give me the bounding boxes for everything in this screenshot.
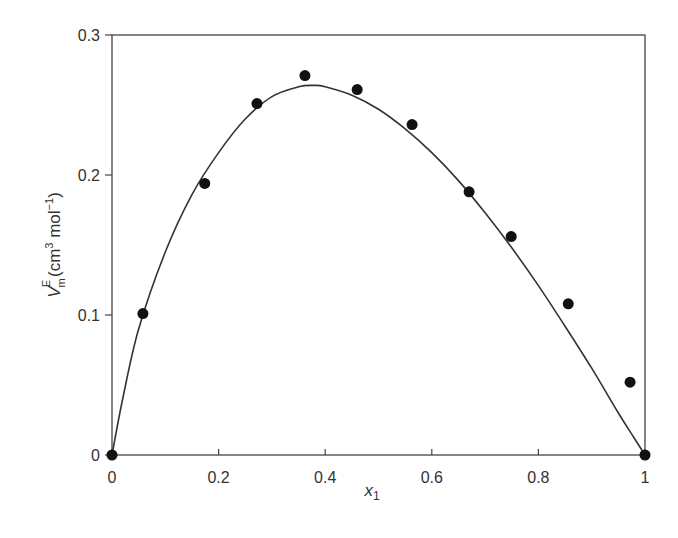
y-axis-label: VmE(cm3 mol−1) bbox=[40, 192, 67, 298]
x-tick-label: 0.6 bbox=[421, 469, 443, 486]
data-point bbox=[199, 178, 210, 189]
data-point bbox=[107, 450, 118, 461]
data-point bbox=[640, 450, 651, 461]
data-point bbox=[506, 231, 517, 242]
x-tick-label: 0.4 bbox=[314, 469, 336, 486]
fitted-curve bbox=[112, 85, 645, 455]
data-point bbox=[563, 298, 574, 309]
x-tick-label: 1 bbox=[641, 469, 650, 486]
data-point bbox=[137, 308, 148, 319]
y-tick-label: 0.2 bbox=[78, 167, 100, 184]
y-tick-label: 0.1 bbox=[78, 307, 100, 324]
x-tick-label: 0.8 bbox=[527, 469, 549, 486]
y-tick-label: 0.3 bbox=[78, 27, 100, 44]
excess-volume-chart: 00.20.40.60.8100.10.20.3 x1 VmE(cm3 mol−… bbox=[0, 0, 678, 538]
fitted-curve-path bbox=[112, 85, 645, 455]
data-point bbox=[352, 84, 363, 95]
data-point bbox=[464, 186, 475, 197]
data-point bbox=[625, 377, 636, 388]
y-tick-label: 0 bbox=[91, 447, 100, 464]
x-axis-label: x1 bbox=[363, 481, 380, 503]
plot-area-border bbox=[112, 35, 645, 455]
data-point bbox=[251, 98, 262, 109]
data-point bbox=[299, 70, 310, 81]
data-points bbox=[107, 70, 651, 460]
plot-frame bbox=[112, 35, 645, 455]
x-tick-label: 0.2 bbox=[207, 469, 229, 486]
x-tick-label: 0 bbox=[108, 469, 117, 486]
data-point bbox=[407, 119, 418, 130]
